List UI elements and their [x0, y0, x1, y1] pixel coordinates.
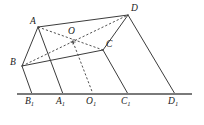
vertex-label-O1: O1: [86, 97, 96, 107]
vertex-label-A1-text: A: [56, 96, 62, 106]
vertex-label-D1-text: D: [168, 96, 175, 106]
vertex-label-B-text: B: [10, 57, 16, 67]
edge-A-A1: [38, 27, 63, 94]
vertex-label-D1-subscript: 1: [175, 100, 178, 107]
vertex-label-A1-subscript: 1: [62, 100, 65, 107]
edge-D-D1: [128, 15, 175, 94]
edge-A-B: [22, 27, 38, 66]
vertex-label-O1-text: O: [86, 96, 93, 106]
vertex-label-A: A: [30, 17, 36, 27]
vertex-label-A1: A1: [56, 97, 65, 107]
vertex-label-O: O: [68, 27, 75, 37]
vertex-label-O1-subscript: 1: [93, 100, 96, 107]
vertex-label-A-text: A: [30, 16, 36, 26]
vertex-label-B1: B1: [25, 97, 34, 107]
edge-B-B1: [22, 66, 32, 94]
vertex-label-D1: D1: [168, 97, 178, 107]
vertex-label-C1-subscript: 1: [127, 100, 130, 107]
vertex-label-B: B: [10, 58, 16, 68]
geometry-figure: ADBCOB1A1O1C1D1: [0, 0, 204, 125]
vertex-label-D-text: D: [131, 3, 138, 13]
vertex-label-O-text: O: [68, 26, 75, 36]
edge-C-C1: [103, 50, 128, 94]
vertex-label-C-text: C: [106, 39, 112, 49]
vertex-label-B1-text: B: [25, 96, 31, 106]
vertex-label-D: D: [131, 4, 138, 14]
vertex-label-C: C: [106, 40, 112, 50]
vertex-label-B1-subscript: 1: [31, 100, 34, 107]
projection-O-O1: [73, 42, 93, 94]
edge-B-C: [22, 50, 103, 66]
vertex-label-C1: C1: [121, 97, 131, 107]
